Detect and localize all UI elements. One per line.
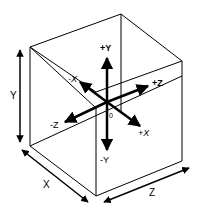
y-dimension-label: Y — [10, 90, 17, 101]
minus-x-label: -X — [68, 74, 78, 84]
plus-z-label: +Z — [152, 78, 163, 88]
minus-z-label: -Z — [50, 120, 59, 130]
minus-x-axis-arrow — [80, 82, 107, 102]
x-dimension-label: X — [43, 179, 50, 190]
coordinate-cube-diagram: +Y -Y +Z -Z -X +X 0 Y X Z — [0, 0, 199, 213]
plus-y-label: +Y — [100, 43, 111, 53]
axes — [65, 58, 148, 150]
minus-z-axis-arrow — [65, 102, 107, 122]
origin-label: 0 — [109, 112, 113, 119]
x-dimension-arrow — [22, 150, 88, 202]
minus-y-label: -Y — [100, 155, 109, 165]
z-dimension-label: Z — [149, 187, 155, 198]
plus-x-label: +X — [138, 128, 150, 138]
z-dimension-arrow — [104, 168, 189, 202]
